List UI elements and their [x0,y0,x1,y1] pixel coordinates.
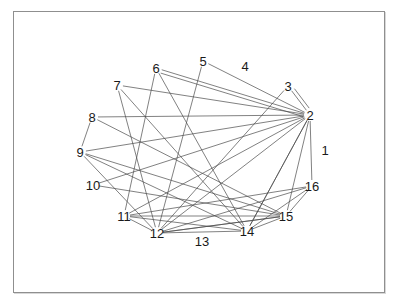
graph-edge [292,91,307,110]
graph-figure: 12345678910111213141516 [0,0,397,306]
graph-edge [119,91,156,227]
graph-edge [294,89,309,108]
graph-node-label-9: 9 [76,146,83,159]
graph-edge [310,121,312,180]
graph-edge [85,155,241,229]
graph-node-label-13: 13 [195,235,209,248]
graph-edge [98,115,304,117]
graph-node-label-5: 5 [199,55,206,68]
graph-node-label-3: 3 [284,80,291,93]
graph-edge [161,90,284,228]
graph-edge [129,219,151,231]
graph-node-label-15: 15 [279,210,293,223]
graph-node-label-12: 12 [150,227,164,240]
graph-node-label-16: 16 [305,180,319,193]
graph-node-label-8: 8 [88,111,95,124]
graph-edge [130,217,241,231]
graph-edge [123,86,304,114]
graph-edge [121,89,243,226]
graph-edges-layer [0,0,397,306]
graph-node-label-4: 4 [241,60,248,73]
graph-node-label-1: 1 [321,144,328,157]
graph-node-label-2: 2 [306,109,313,122]
graph-edge [86,154,281,214]
graph-node-label-6: 6 [152,62,159,75]
graph-edge [287,121,308,210]
graph-node-label-14: 14 [240,225,254,238]
graph-node-label-7: 7 [113,79,120,92]
graph-edge [125,74,154,210]
graph-node-label-11: 11 [117,210,131,223]
graph-edge [82,123,90,147]
graph-edge [159,67,202,227]
graph-node-label-10: 10 [86,179,100,192]
graph-edge [86,116,304,151]
